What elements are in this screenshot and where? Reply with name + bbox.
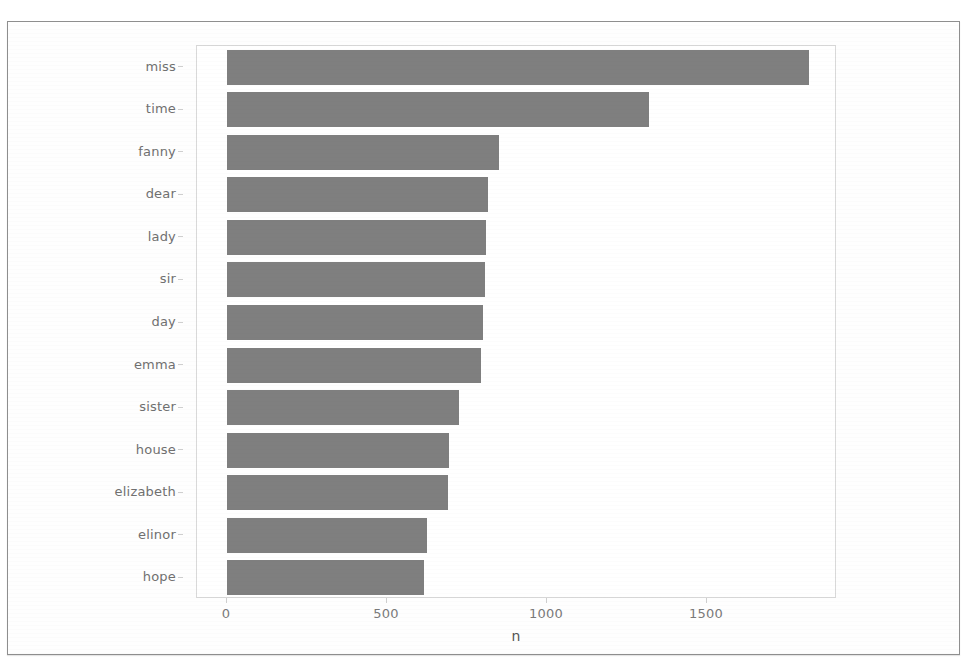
y-tick-mark-day <box>178 322 183 323</box>
x-tick-label-0: 0 <box>222 606 230 621</box>
bar-sir <box>227 262 485 297</box>
bar-fill <box>227 92 649 127</box>
bar-fill <box>227 50 809 85</box>
y-axis-labels: misstimefannydearladysirdayemmasisterhou… <box>8 45 190 598</box>
bar-elinor <box>227 518 427 553</box>
bar-fill <box>227 518 427 553</box>
scanned-page-frame: misstimefannydearladysirdayemmasisterhou… <box>7 21 960 655</box>
y-tick-mark-elizabeth <box>178 492 183 493</box>
y-tick-mark-dear <box>178 194 183 195</box>
y-tick-mark-sir <box>178 279 183 280</box>
y-tick-mark-miss <box>178 66 183 67</box>
bar-fill <box>227 475 448 510</box>
bar-lady <box>227 220 486 255</box>
y-tick-label-house: house <box>136 432 176 467</box>
y-tick-mark-hope <box>178 577 183 578</box>
bar-fill <box>227 390 459 425</box>
bar-fanny <box>227 135 499 170</box>
y-tick-mark-lady <box>178 236 183 237</box>
bar-miss <box>227 50 809 85</box>
bars-layer <box>197 46 835 597</box>
x-tick-label-1500: 1500 <box>689 606 723 621</box>
x-axis: n 050010001500 <box>196 598 836 656</box>
y-tick-label-hope: hope <box>143 559 176 594</box>
y-tick-label-sister: sister <box>139 389 176 424</box>
y-tick-mark-emma <box>178 364 183 365</box>
bar-house <box>227 433 449 468</box>
y-tick-mark-fanny <box>178 151 183 152</box>
y-tick-label-miss: miss <box>145 49 176 84</box>
y-tick-mark-sister <box>178 407 183 408</box>
y-tick-label-emma: emma <box>134 347 176 382</box>
bar-chart-figure: misstimefannydearladysirdayemmasisterhou… <box>8 22 961 656</box>
y-tick-label-lady: lady <box>148 219 176 254</box>
bar-emma <box>227 348 481 383</box>
bar-elizabeth <box>227 475 448 510</box>
y-tick-label-elizabeth: elizabeth <box>115 474 176 509</box>
bar-dear <box>227 177 488 212</box>
y-tick-label-fanny: fanny <box>138 134 176 169</box>
y-tick-mark-house <box>178 449 183 450</box>
bar-hope <box>227 560 424 595</box>
bar-fill <box>227 305 483 340</box>
bar-day <box>227 305 483 340</box>
x-tick-mark-1000 <box>546 598 547 603</box>
x-tick-label-500: 500 <box>373 606 398 621</box>
bar-fill <box>227 220 486 255</box>
bar-sister <box>227 390 459 425</box>
x-tick-mark-0 <box>226 598 227 603</box>
y-tick-mark-elinor <box>178 534 183 535</box>
x-tick-label-1000: 1000 <box>529 606 563 621</box>
y-tick-label-dear: dear <box>146 176 176 211</box>
bar-fill <box>227 262 485 297</box>
bar-fill <box>227 560 424 595</box>
y-tick-label-elinor: elinor <box>138 517 176 552</box>
bar-fill <box>227 135 499 170</box>
y-tick-label-sir: sir <box>160 261 176 296</box>
bar-fill <box>227 177 488 212</box>
bar-time <box>227 92 649 127</box>
x-tick-mark-500 <box>386 598 387 603</box>
y-tick-mark-time <box>178 109 183 110</box>
plot-panel <box>196 45 836 598</box>
y-tick-label-time: time <box>146 91 176 126</box>
bar-fill <box>227 348 481 383</box>
x-axis-title: n <box>196 628 836 644</box>
bar-fill <box>227 433 449 468</box>
y-tick-label-day: day <box>151 304 176 339</box>
x-tick-mark-1500 <box>706 598 707 603</box>
